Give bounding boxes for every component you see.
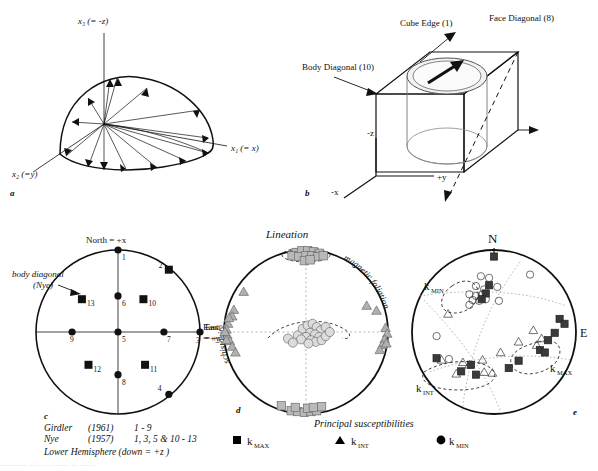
panel-c-point-label: 9 — [70, 335, 74, 344]
panel-c-caption-row-1-range: 1, 3, 5 & 10 - 13 — [134, 434, 197, 444]
figure-svg: x₃ (= -z) x₁ (= x) x₂ (=y) a — [0, 0, 598, 471]
panel-b: -z +y -x Cube Edge (1) Face Diagonal (8)… — [302, 13, 554, 202]
panel-e-kmin-symbol — [485, 274, 492, 281]
panel-e-kmin-symbol — [472, 282, 479, 289]
panel-c-point-label: 4 — [158, 384, 162, 393]
panel-a-axis-left-label: x₂ (=y) — [11, 169, 37, 179]
panel-d-letter: d — [236, 405, 241, 415]
panel-d-east-label-1: East — [205, 322, 221, 332]
panel-c-point-label: 8 — [122, 378, 126, 387]
panel-d-kmax-symbol — [306, 256, 314, 264]
panel-e: N E k MIN k INT k MAX e — [412, 231, 587, 417]
panel-e-kmin-symbol — [445, 355, 452, 362]
panel-c-point-label: 6 — [122, 299, 126, 308]
panel-a-base-arc — [60, 153, 208, 170]
legend-kmax-sub: MAX — [254, 442, 269, 449]
panel-b-letter: b — [305, 188, 310, 198]
panel-a-axis-right-label: x₁ (= x) — [230, 143, 259, 153]
legend-kmax-label: k — [247, 435, 253, 447]
panel-c-caption-row-1-name: Nye — [43, 434, 59, 444]
figure-root: x₃ (= -z) x₁ (= x) x₂ (=y) a — [0, 0, 598, 471]
panel-d-title: Lineation — [265, 228, 309, 240]
panel-d-kmin-symbol — [304, 339, 313, 348]
legend-kint-triangle — [335, 436, 345, 444]
panel-a-axis-right — [104, 124, 227, 146]
panel-a-letter: a — [10, 188, 15, 198]
panel-e-kmin-symbol — [526, 271, 533, 278]
legend-kint-label: k — [351, 435, 357, 447]
panel-e-kint-symbol — [496, 348, 505, 356]
panel-e-kmax-symbol — [485, 282, 492, 289]
panel-e-kmin-symbol — [495, 297, 502, 304]
panel-c-point — [114, 371, 121, 378]
panel-e-north-label: N — [488, 231, 498, 246]
panel-d-kmax-symbol — [291, 403, 299, 411]
panel-d-kint-symbol — [381, 323, 391, 331]
panel-d-kmax-symbol — [317, 402, 325, 410]
panel-d-kint-symbol — [239, 287, 249, 295]
panel-d-kmin-symbol — [288, 338, 297, 347]
panel-b-face-diagonal-label: Face Diagonal (8) — [489, 13, 554, 23]
panel-e-kmax-symbol — [515, 357, 522, 364]
panel-e-kint-sub: INT — [423, 389, 434, 396]
panel-c-point-label: 1 — [122, 253, 126, 262]
panel-d: schistosity magnetic foliation Lineation… — [205, 228, 392, 417]
panel-e-kmax-symbol — [433, 355, 440, 362]
panel-e-girdle-guide-2 — [430, 356, 570, 372]
panel-b-core-bottom-ellipse — [407, 128, 487, 164]
panel-e-kmax-symbol — [478, 296, 485, 303]
panel-d-kmax-symbol — [309, 403, 317, 411]
legend-kmin-circle — [437, 436, 446, 445]
legend-kmin-label: k — [449, 435, 455, 447]
panel-c-caption-row-0-year: (1961) — [88, 423, 113, 434]
panel-c-hemisphere-note: Lower Hemisphere (down = +z ) — [43, 447, 169, 458]
panel-c-point — [141, 361, 149, 369]
panel-e-kmax-sub: MAX — [557, 369, 572, 376]
panel-a-axis-left — [33, 124, 104, 172]
panel-e-kmax-symbol — [490, 253, 497, 260]
panel-c-point-label: 10 — [148, 299, 156, 308]
panel-e-kmin-symbol — [477, 273, 484, 280]
panel-c-point — [139, 295, 147, 303]
panel-c-point — [78, 295, 86, 303]
panel-b-face-diagonal-arrowhead — [444, 190, 452, 202]
panel-e-letter: e — [573, 407, 577, 417]
panel-e-kmax-symbol — [541, 349, 548, 356]
panel-c-annotation-arrowhead — [70, 289, 81, 296]
panel-c-point — [114, 292, 121, 299]
legend: Principal susceptibilities k MAX k INT k… — [233, 418, 469, 449]
panel-e-kmin-group — [433, 271, 534, 363]
panel-c-point — [165, 266, 173, 274]
panel-e-kint-symbol — [529, 326, 538, 334]
panel-e-kint-label: k — [416, 382, 422, 394]
panel-e-kint-symbol — [478, 356, 487, 364]
panel-d-kint-symbol — [372, 306, 382, 314]
panel-b-body-diagonal-label: Body Diagonal (10) — [302, 62, 374, 72]
panel-b-axis-x — [344, 176, 376, 198]
panel-a: x₃ (= -z) x₁ (= x) x₂ (=y) a — [10, 16, 259, 198]
panel-a-dome-outline — [60, 77, 213, 154]
panel-c-point — [114, 328, 121, 335]
panel-e-kmax-symbol — [545, 337, 552, 344]
panel-c-point-label: 7 — [167, 335, 171, 344]
legend-kmax-square — [233, 436, 241, 444]
panel-c-point-label: 13 — [87, 299, 95, 308]
legend-title: Principal susceptibilities — [313, 418, 414, 429]
legend-kmin-sub: MIN — [456, 442, 469, 449]
panel-c-point-label: 2 — [159, 261, 163, 270]
panel-c-point-label: 5 — [122, 335, 126, 344]
panel-c-caption-row-1-year: (1957) — [88, 434, 113, 445]
panel-e-kint-group — [437, 310, 546, 377]
panel-e-kmin-symbol — [433, 332, 440, 339]
panel-c-annotation-line-2: (Nye) — [33, 280, 53, 290]
panel-e-kmax-symbol — [472, 371, 479, 378]
panel-e-kmax-symbol — [505, 364, 512, 371]
panel-d-east-label-2: = +y — [205, 333, 222, 343]
panel-c-point-group: 12345678910111213 — [68, 246, 203, 398]
panel-e-kmax-label: k — [550, 362, 556, 374]
panel-c-point-label: 3 — [196, 336, 200, 345]
panel-b-axis-x-label: -x — [331, 187, 339, 197]
panel-e-kint-symbol — [514, 337, 523, 345]
panel-b-body-diagonal-arrow — [334, 77, 373, 92]
panel-b-right-axis-arrowhead — [529, 126, 539, 134]
